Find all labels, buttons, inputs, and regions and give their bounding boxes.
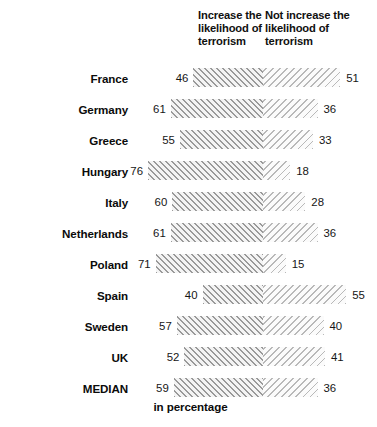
bar-area: 5533 <box>0 124 377 155</box>
bar-segment-increase <box>180 130 263 149</box>
bar-area: 6136 <box>0 217 377 248</box>
chart-row: Spain4055 <box>0 279 377 310</box>
bar-segment-not-increase <box>263 285 346 304</box>
bar-area: 4055 <box>0 279 377 310</box>
chart-row: Greece5533 <box>0 124 377 155</box>
value-label-not-increase: 36 <box>323 227 336 239</box>
value-label-not-increase: 18 <box>296 165 309 177</box>
value-label-not-increase: 40 <box>330 320 343 332</box>
chart-row: UK5241 <box>0 341 377 372</box>
chart-row: MEDIAN5936 <box>0 372 377 403</box>
bar-segment-increase <box>172 192 263 211</box>
column-header-not-increase: Not increase the likelihood of terrorism <box>265 9 375 49</box>
chart-row: Netherlands6136 <box>0 217 377 248</box>
column-header-group: Increase the likelihood of terrorism Not… <box>0 9 377 57</box>
value-label-increase: 76 <box>130 165 143 177</box>
bar-area: 6136 <box>0 93 377 124</box>
value-label-not-increase: 33 <box>319 134 332 146</box>
value-label-not-increase: 36 <box>323 103 336 115</box>
bar-segment-not-increase <box>263 130 313 149</box>
value-label-not-increase: 15 <box>292 258 305 270</box>
bar-segment-not-increase <box>263 378 318 397</box>
value-label-increase: 59 <box>156 382 169 394</box>
value-label-increase: 46 <box>176 72 189 84</box>
bar-area: 4651 <box>0 62 377 93</box>
bar-segment-not-increase <box>263 68 340 87</box>
value-label-not-increase: 28 <box>311 196 324 208</box>
bar-segment-not-increase <box>263 99 318 118</box>
bar-segment-increase <box>193 68 263 87</box>
bar-area: 5241 <box>0 341 377 372</box>
bar-segment-increase <box>174 378 263 397</box>
value-label-not-increase: 51 <box>346 72 359 84</box>
bar-segment-increase <box>184 347 263 366</box>
value-label-increase: 71 <box>138 258 151 270</box>
bar-area: 7618 <box>0 155 377 186</box>
bar-segment-increase <box>203 285 264 304</box>
bar-segment-not-increase <box>263 316 324 335</box>
value-label-not-increase: 36 <box>323 382 336 394</box>
chart-rows: France4651Germany6136Greece5533Hungary76… <box>0 62 377 403</box>
value-label-increase: 61 <box>153 227 166 239</box>
value-label-increase: 40 <box>185 289 198 301</box>
value-label-increase: 55 <box>162 134 175 146</box>
bar-segment-increase <box>148 161 263 180</box>
diverging-bar-chart: Increase the likelihood of terrorism Not… <box>0 0 377 427</box>
bar-segment-not-increase <box>263 161 290 180</box>
value-label-increase: 60 <box>155 196 168 208</box>
value-label-increase: 61 <box>153 103 166 115</box>
bar-segment-not-increase <box>263 223 318 242</box>
chart-row: Italy6028 <box>0 186 377 217</box>
bar-segment-increase <box>156 254 263 273</box>
value-label-not-increase: 55 <box>352 289 365 301</box>
bar-area: 6028 <box>0 186 377 217</box>
bar-area: 7115 <box>0 248 377 279</box>
value-label-increase: 52 <box>167 351 180 363</box>
bar-segment-not-increase <box>263 347 325 366</box>
chart-row: Germany6136 <box>0 93 377 124</box>
bar-area: 5936 <box>0 372 377 403</box>
chart-row: Hungary7618 <box>0 155 377 186</box>
axis-note: in percentage <box>0 400 377 413</box>
bar-segment-increase <box>171 99 263 118</box>
bar-segment-not-increase <box>263 254 286 273</box>
bar-segment-increase <box>171 223 263 242</box>
chart-row: Sweden5740 <box>0 310 377 341</box>
bar-area: 5740 <box>0 310 377 341</box>
bar-segment-not-increase <box>263 192 305 211</box>
chart-row: France4651 <box>0 62 377 93</box>
value-label-not-increase: 41 <box>331 351 344 363</box>
bar-segment-increase <box>177 316 263 335</box>
chart-row: Poland7115 <box>0 248 377 279</box>
value-label-increase: 57 <box>159 320 172 332</box>
